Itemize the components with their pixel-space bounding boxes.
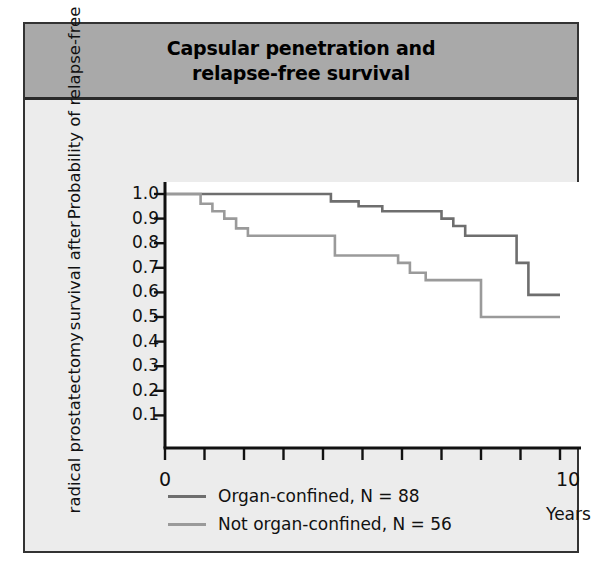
- x-axis-tick-label-min: 0: [159, 470, 171, 489]
- x-axis-tick-label-max: 10: [556, 470, 580, 489]
- legend-label: Organ-confined, N = 88: [218, 486, 420, 506]
- figure-card: Capsular penetration and relapse-free su…: [23, 22, 579, 553]
- legend-line-swatch: [168, 495, 206, 498]
- x-axis-title: Years: [546, 504, 591, 524]
- legend-label: Not organ-confined, N = 56: [218, 514, 452, 534]
- chart-legend: Organ-confined, N = 88Not organ-confined…: [168, 482, 452, 538]
- figure-title-line-2: relapse-free survival: [192, 61, 410, 86]
- plot-background: [165, 182, 581, 448]
- figure-title-line-1: Capsular penetration and: [167, 36, 436, 61]
- legend-row: Organ-confined, N = 88: [168, 482, 452, 510]
- chart-region: Probability of relapse-free survival aft…: [25, 100, 577, 551]
- figure-title-band: Capsular penetration and relapse-free su…: [25, 24, 577, 100]
- legend-line-swatch: [168, 523, 206, 526]
- legend-row: Not organ-confined, N = 56: [168, 510, 452, 538]
